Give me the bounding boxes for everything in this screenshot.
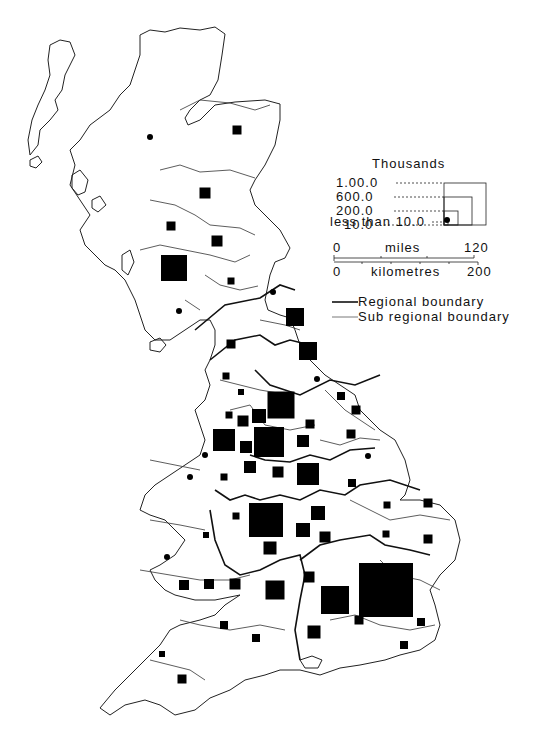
legend-size-label-1000: 1.00.0 <box>336 175 378 190</box>
scale-miles-label: miles <box>385 240 420 255</box>
square-symbol <box>352 406 361 415</box>
legend-dot-icon <box>444 217 450 223</box>
square-symbol <box>204 579 214 589</box>
square-symbol <box>299 342 317 360</box>
square-symbol <box>266 581 285 600</box>
square-symbol <box>337 392 345 400</box>
square-symbol <box>249 503 283 537</box>
square-symbol <box>221 474 228 481</box>
square-symbol <box>321 586 349 614</box>
square-symbol <box>252 409 266 423</box>
dot-symbol <box>270 289 276 295</box>
square-symbol <box>159 651 165 657</box>
square-symbol <box>161 255 187 281</box>
square-symbol <box>304 572 315 583</box>
square-symbol <box>264 542 277 555</box>
dot-symbol <box>176 308 182 314</box>
dot-symbol <box>147 134 153 140</box>
square-symbol <box>228 278 235 285</box>
square-symbol <box>273 467 284 478</box>
dot-symbol <box>187 474 193 480</box>
square-symbol <box>213 429 235 451</box>
scale-km-start: 0 <box>333 264 341 279</box>
square-symbol <box>178 675 187 684</box>
population-symbols <box>147 126 433 684</box>
square-symbol <box>417 618 425 626</box>
legend-title: Thousands <box>372 156 445 171</box>
square-symbol <box>179 580 189 590</box>
square-symbol <box>254 427 284 457</box>
square-symbol <box>252 634 260 642</box>
legend-size-label-600: 600.0 <box>336 189 374 204</box>
square-symbol <box>348 479 356 487</box>
square-symbol <box>306 420 315 429</box>
scale-km-label: kilometres <box>371 264 440 279</box>
square-symbol <box>233 126 242 135</box>
square-symbol <box>167 222 176 231</box>
square-symbol <box>297 435 309 447</box>
square-symbol <box>311 506 325 520</box>
regional-boundary-label: Regional boundary <box>358 294 484 309</box>
square-symbol <box>400 641 408 649</box>
square-symbol <box>320 532 331 543</box>
square-symbol <box>297 463 319 485</box>
uk-map: Thousands 1.00.0 600.0 200.0 10.0 less t… <box>0 0 541 740</box>
dot-symbol <box>202 452 208 458</box>
square-symbol <box>220 621 228 629</box>
legend-dot-text: less than 10.0 <box>330 214 425 229</box>
subregional-boundary-label: Sub regional boundary <box>358 309 510 324</box>
square-symbol <box>296 523 310 537</box>
square-symbol <box>233 513 240 520</box>
square-symbol <box>347 430 356 439</box>
square-symbol <box>424 535 433 544</box>
square-symbol <box>424 499 433 508</box>
square-symbol <box>268 392 295 419</box>
dot-symbol <box>365 453 371 459</box>
dot-symbol <box>164 554 170 560</box>
scale-miles-end: 120 <box>464 240 489 255</box>
square-symbol <box>203 532 209 538</box>
square-symbol <box>238 389 244 395</box>
square-symbol <box>240 441 252 453</box>
legend: Thousands 1.00.0 600.0 200.0 10.0 less t… <box>330 156 510 324</box>
square-symbol <box>286 308 304 326</box>
scale-miles-start: 0 <box>333 240 341 255</box>
square-symbol <box>226 412 233 419</box>
square-symbol <box>223 373 230 380</box>
square-symbol <box>200 188 211 199</box>
square-symbol <box>238 416 249 427</box>
square-symbol <box>212 236 223 247</box>
dot-symbol <box>314 376 320 382</box>
square-symbol <box>244 461 256 473</box>
scale-km-end: 200 <box>467 264 492 279</box>
square-symbol <box>227 340 236 349</box>
square-symbol <box>230 579 241 590</box>
square-symbol <box>355 616 364 625</box>
square-symbol <box>383 531 390 538</box>
square-symbol <box>384 502 391 509</box>
square-symbol <box>359 563 413 617</box>
square-symbol <box>308 626 321 639</box>
